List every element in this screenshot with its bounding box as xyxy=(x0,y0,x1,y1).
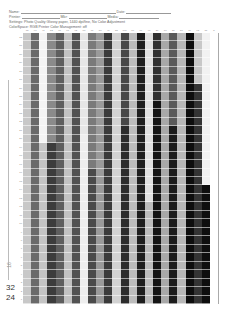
color-patch xyxy=(96,143,104,151)
color-patch xyxy=(137,143,145,151)
row-label: 18 xyxy=(14,152,22,160)
color-patch xyxy=(39,202,47,210)
color-patch xyxy=(31,41,39,49)
row-label: 9 xyxy=(14,228,22,236)
color-patch xyxy=(169,160,177,168)
media-field[interactable] xyxy=(119,15,159,19)
color-patch xyxy=(72,202,80,210)
color-patch xyxy=(210,58,218,66)
color-patch xyxy=(56,279,64,287)
name-label: Name: xyxy=(9,10,20,14)
color-patch xyxy=(23,50,31,58)
color-patch xyxy=(47,33,55,41)
color-patch xyxy=(88,228,96,236)
color-patch xyxy=(112,270,120,278)
color-patch xyxy=(72,152,80,160)
color-patch xyxy=(80,84,88,92)
color-patch xyxy=(121,84,129,92)
color-patch xyxy=(153,126,161,134)
color-patch xyxy=(137,67,145,75)
color-patch xyxy=(169,33,177,41)
color-patch xyxy=(194,177,202,185)
color-patch xyxy=(177,50,185,58)
color-patch xyxy=(56,177,64,185)
color-patch xyxy=(31,50,39,58)
printer-field[interactable] xyxy=(22,15,60,19)
color-patch xyxy=(210,109,218,117)
color-patch xyxy=(153,202,161,210)
color-patch xyxy=(64,50,72,58)
color-patch xyxy=(145,58,153,66)
color-patch xyxy=(88,262,96,270)
color-patch xyxy=(161,194,169,202)
color-patch xyxy=(96,211,104,219)
settings-line: Settings: Photo Quality Glossy paper, 14… xyxy=(9,20,125,24)
color-patch xyxy=(47,109,55,117)
color-patch xyxy=(137,262,145,270)
color-patch xyxy=(161,84,169,92)
color-patch xyxy=(169,177,177,185)
color-patch xyxy=(177,118,185,126)
color-patch xyxy=(88,41,96,49)
color-patch xyxy=(145,228,153,236)
color-patch xyxy=(202,211,210,219)
color-patch xyxy=(31,58,39,66)
color-patch xyxy=(145,152,153,160)
color-patch xyxy=(104,236,112,244)
color-patch xyxy=(129,202,137,210)
color-patch xyxy=(202,75,210,83)
color-patch xyxy=(137,287,145,295)
color-patch xyxy=(39,169,47,177)
color-patch xyxy=(39,84,47,92)
color-patch xyxy=(72,219,80,227)
color-patch xyxy=(56,185,64,193)
color-patch xyxy=(169,296,177,304)
color-patch xyxy=(80,109,88,117)
color-patch xyxy=(202,270,210,278)
color-patch xyxy=(177,84,185,92)
color-patch xyxy=(64,84,72,92)
color-patch xyxy=(169,84,177,92)
color-patch xyxy=(80,92,88,100)
color-patch xyxy=(31,33,39,41)
color-patch xyxy=(104,287,112,295)
color-patch xyxy=(39,92,47,100)
row-label: 22 xyxy=(14,118,22,126)
color-patch xyxy=(96,279,104,287)
color-patch xyxy=(186,33,194,41)
color-patch xyxy=(169,270,177,278)
color-patch xyxy=(129,67,137,75)
color-patch xyxy=(112,236,120,244)
color-patch xyxy=(31,194,39,202)
color-patch xyxy=(145,236,153,244)
color-patch xyxy=(56,33,64,41)
color-patch xyxy=(186,228,194,236)
color-patch xyxy=(64,270,72,278)
color-patch xyxy=(210,67,218,75)
color-patch xyxy=(194,75,202,83)
color-patch xyxy=(88,75,96,83)
row-label: 27 xyxy=(14,75,22,83)
color-patch xyxy=(202,101,210,109)
color-patch xyxy=(88,101,96,109)
margin-line xyxy=(8,80,9,280)
color-patch xyxy=(177,135,185,143)
name-field[interactable] xyxy=(21,10,116,14)
color-patch xyxy=(72,101,80,109)
color-patch xyxy=(96,92,104,100)
color-patch xyxy=(129,75,137,83)
color-patch xyxy=(72,270,80,278)
color-patch xyxy=(72,236,80,244)
color-patch xyxy=(202,84,210,92)
color-patch xyxy=(202,143,210,151)
color-patch xyxy=(137,152,145,160)
color-patch xyxy=(145,253,153,261)
color-patch xyxy=(56,109,64,117)
color-patch xyxy=(23,177,31,185)
color-patch xyxy=(137,202,145,210)
color-patch xyxy=(177,109,185,117)
date-field[interactable] xyxy=(126,10,171,14)
color-patch xyxy=(80,126,88,134)
mkr-field[interactable] xyxy=(69,15,107,19)
color-patch xyxy=(177,262,185,270)
